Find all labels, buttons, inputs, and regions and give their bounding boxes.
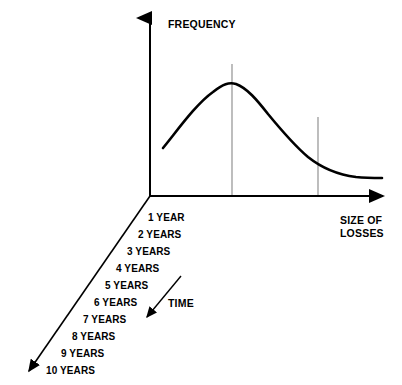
depth-tick-label: 7 YEARS (83, 314, 127, 325)
loss-distribution-chart: FREQUENCY SIZE OF LOSSES TIME 1 YEAR 2 Y… (0, 0, 402, 385)
depth-tick-label: 1 YEAR (148, 212, 185, 223)
depth-tick-label: 8 YEARS (72, 331, 116, 342)
depth-tick-label: 5 YEARS (105, 280, 149, 291)
depth-axis-label: TIME (168, 297, 194, 309)
depth-tick-label: 2 YEARS (138, 229, 182, 240)
x-axis-label-line1: SIZE OF (340, 214, 383, 226)
depth-tick-label: 6 YEARS (94, 297, 138, 308)
depth-tick-label: 3 YEARS (127, 246, 171, 257)
frequency-distribution-curve (163, 83, 382, 178)
chart-canvas: FREQUENCY SIZE OF LOSSES TIME 1 YEAR 2 Y… (0, 0, 402, 385)
y-axis-label: FREQUENCY (168, 18, 236, 30)
depth-tick-label: 4 YEARS (116, 263, 160, 274)
depth-tick-label: 10 YEARS (46, 365, 95, 376)
depth-tick-label: 9 YEARS (61, 348, 105, 359)
x-axis-label-line2: LOSSES (340, 227, 384, 239)
